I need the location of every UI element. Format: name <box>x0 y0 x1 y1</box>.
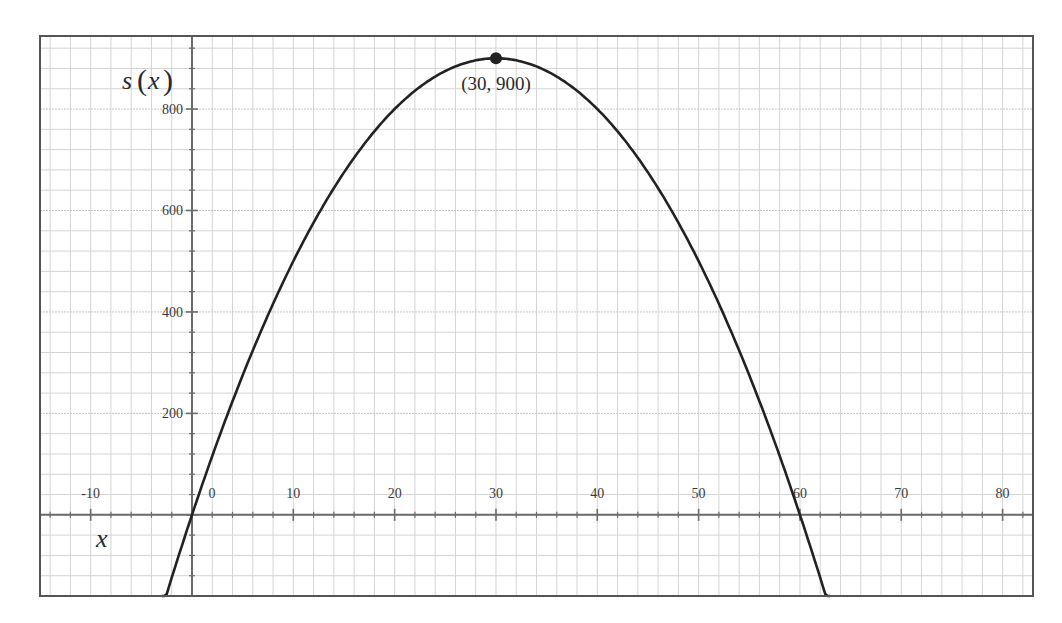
x-axis-tick-labels: -1001020304050607080 <box>81 486 1009 501</box>
parabola-chart: -1001020304050607080 200400600800 (30, 9… <box>0 0 1062 623</box>
x-tick-label: 20 <box>388 486 402 501</box>
y-axis-title: s ( x ) <box>122 63 173 97</box>
x-tick-label: 40 <box>590 486 604 501</box>
x-tick-label: 80 <box>996 486 1010 501</box>
x-tick-label: -10 <box>81 486 100 501</box>
vertex-point <box>490 52 502 64</box>
x-tick-label: 70 <box>894 486 908 501</box>
x-tick-label: 10 <box>286 486 300 501</box>
x-axis-title: x <box>95 524 108 553</box>
y-tick-label: 400 <box>162 305 183 320</box>
y-tick-label: 200 <box>162 406 183 421</box>
y-axis-title-var: x <box>147 66 160 95</box>
y-axis-title-paren-open: ( <box>137 63 147 97</box>
x-tick-label: 30 <box>489 486 503 501</box>
y-tick-label: 800 <box>162 102 183 117</box>
y-axis-title-fn: s <box>122 66 132 95</box>
x-tick-label: 0 <box>208 486 215 501</box>
y-tick-label: 600 <box>162 203 183 218</box>
y-axis-title-paren-close: ) <box>163 63 173 97</box>
vertex-label: (30, 900) <box>461 73 531 95</box>
x-tick-label: 50 <box>692 486 706 501</box>
